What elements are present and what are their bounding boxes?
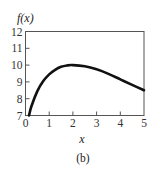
- x-tick-label: 4: [117, 117, 123, 129]
- x-tick-label: 0: [23, 117, 29, 129]
- plot-frame: [26, 32, 145, 116]
- x-axis-ticks: 012345: [23, 112, 148, 129]
- y-tick-label: 10: [11, 59, 23, 71]
- y-tick-label: 11: [11, 42, 22, 54]
- x-tick-label: 2: [70, 117, 76, 129]
- y-tick-label: 8: [17, 93, 23, 105]
- y-axis-title: f(x): [17, 11, 34, 25]
- x-axis-title: x: [78, 132, 85, 146]
- x-tick-label: 3: [94, 117, 100, 129]
- y-axis-ticks: 789101112: [11, 26, 30, 122]
- function-curve: [29, 65, 144, 115]
- figure-caption: (b): [76, 152, 90, 165]
- y-tick-label: 9: [17, 76, 23, 88]
- x-tick-label: 1: [46, 117, 52, 129]
- chart-figure: f(x) 789101112 012345 x (b): [0, 0, 155, 170]
- x-tick-label: 5: [141, 117, 147, 129]
- y-tick-label: 12: [11, 26, 23, 38]
